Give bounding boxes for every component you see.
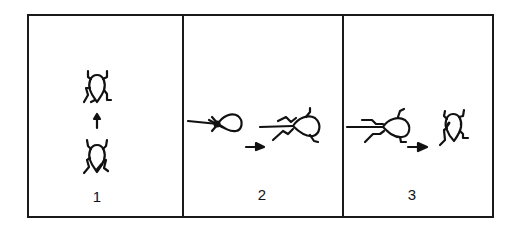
figure-artwork: 1 2 3 xyxy=(0,0,513,226)
beetle-icon-panel1-lower xyxy=(84,140,108,173)
beetle-icon-panel3-left xyxy=(347,109,409,142)
arrow-up-icon xyxy=(94,114,100,128)
panel-label-2: 2 xyxy=(258,186,266,203)
panel-label-3: 3 xyxy=(408,186,416,203)
beetle-icon-panel1-upper xyxy=(84,71,111,102)
beetle-icon-panel3-right xyxy=(440,110,468,145)
arrow-right-icon-panel2 xyxy=(246,143,264,150)
beetle-icon-panel2-left xyxy=(188,114,242,131)
panel-label-1: 1 xyxy=(93,188,101,205)
arrow-right-icon-panel3 xyxy=(408,143,427,151)
beetle-icon-panel2-right xyxy=(260,108,319,142)
